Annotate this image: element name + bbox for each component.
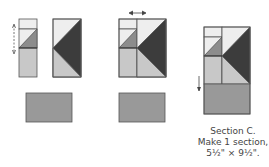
bottom-rectangle-1: [26, 93, 72, 122]
double-vertical-arrow-icon: [13, 24, 16, 54]
step-1-group: [13, 19, 82, 122]
double-horizontal-arrow-icon: [129, 11, 146, 15]
caption-title: Section C.: [196, 126, 269, 137]
down-arrow-icon: [198, 76, 201, 91]
left-strip-unit: [19, 19, 37, 77]
step-3-group: [198, 27, 251, 114]
section-caption: Section C. Make 1 section, 5½" × 9½".: [196, 126, 269, 159]
flying-geese-unit: [53, 19, 81, 77]
bottom-rectangle-2: [119, 93, 165, 122]
completed-section: [204, 27, 250, 114]
caption-instruction: Make 1 section,: [196, 137, 269, 148]
step-2-group: [119, 11, 166, 122]
joined-top-unit: [119, 19, 166, 77]
caption-dimensions: 5½" × 9½".: [196, 148, 269, 159]
